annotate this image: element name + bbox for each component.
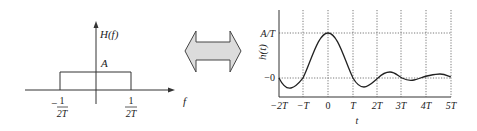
x-tick-neg2t: −2T: [270, 100, 289, 111]
hf-label: H(f): [99, 28, 119, 41]
amplitude-label: A: [100, 57, 108, 69]
pos-cutoff-numerator: 1: [129, 95, 134, 106]
f-axis-arrow-icon: [168, 88, 175, 93]
f-label: f: [183, 95, 188, 107]
x-tick-5t: 5T: [446, 100, 458, 111]
x-tick-neg-t: −T: [297, 100, 311, 111]
figure-canvas: H(f) A f − 1 2T 1 2T h(t) A/T −0 −2: [0, 0, 477, 131]
y-tick-peak: A/T: [260, 28, 277, 39]
double-arrow-icon: [185, 31, 241, 72]
x-tick-t: T: [350, 100, 357, 111]
x-tick-3t: 3T: [395, 100, 408, 111]
ht-curve: [279, 33, 451, 88]
hf-axis-arrow-icon: [94, 21, 99, 28]
ht-y-label: h(t): [256, 44, 269, 60]
impulse-response-plot: h(t) A/T −0 −2T −T 0 T 2T 3T 4T 5T t: [256, 10, 458, 126]
pos-cutoff-denominator: 2T: [126, 108, 138, 119]
x-tick-0: 0: [326, 100, 331, 111]
x-tick-2t: 2T: [372, 100, 384, 111]
t-axis-label: t: [356, 115, 359, 126]
neg-cutoff-numerator: 1: [60, 95, 65, 106]
frequency-response-plot: H(f) A f − 1 2T 1 2T: [25, 21, 188, 119]
ht-y-label-text: h(t): [256, 44, 269, 60]
neg-cutoff-denominator: 2T: [57, 108, 69, 119]
y-tick-zero: −0: [264, 72, 275, 83]
grid: [279, 10, 451, 97]
x-tick-4t: 4T: [421, 100, 433, 111]
